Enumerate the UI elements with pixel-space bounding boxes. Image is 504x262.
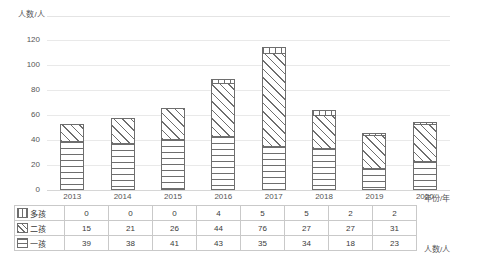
bar-2020 [413, 123, 437, 190]
y-tick-100: 100 [0, 60, 40, 69]
table-row-header-一孩: 一孩 [15, 236, 65, 251]
bar-segment-一孩-2015 [161, 139, 185, 190]
bar-2015 [161, 109, 185, 190]
bar-2013 [60, 125, 84, 190]
data-table: 多孩00045522二孩1521264476272731一孩3938414335… [14, 205, 417, 251]
bar-segment-一孩-2018 [312, 148, 336, 190]
y-tick-120: 120 [0, 35, 40, 44]
table-row: 一孩3938414335341823 [15, 236, 417, 251]
table-cell-多孩-2013: 0 [65, 206, 109, 221]
bar-segment-二孩-2016 [211, 83, 235, 138]
table-row: 多孩00045522 [15, 206, 417, 221]
y-tick-40: 40 [0, 135, 40, 144]
bar-segment-二孩-2019 [362, 135, 386, 169]
table-cell-一孩-2019: 18 [329, 236, 373, 251]
bar-segment-二孩-2020 [413, 124, 437, 163]
table-cell-二孩-2016: 44 [197, 221, 241, 236]
table-cell-一孩-2013: 39 [65, 236, 109, 251]
table-row-label: 二孩 [30, 225, 46, 234]
table-cell-多孩-2020: 2 [373, 206, 417, 221]
table-cell-多孩-2014: 0 [109, 206, 153, 221]
bar-group [47, 0, 450, 190]
table-row-header-多孩: 多孩 [15, 206, 65, 221]
table-cell-一孩-2014: 38 [109, 236, 153, 251]
bar-2017 [262, 48, 286, 190]
bar-segment-一孩-2016 [211, 136, 235, 190]
table-cell-二孩-2013: 15 [65, 221, 109, 236]
bar-2014 [111, 119, 135, 191]
bar-2019 [362, 134, 386, 190]
legend-swatch-icon-多孩 [17, 208, 28, 218]
table-units-label: 人数/人 [424, 243, 450, 254]
table-cell-多孩-2019: 2 [329, 206, 373, 221]
bar-segment-二孩-2015 [161, 108, 185, 140]
x-tick-2016: 2016 [198, 192, 248, 201]
bar-segment-二孩-2013 [60, 124, 84, 143]
x-tick-2017: 2017 [249, 192, 299, 201]
table-row-label: 多孩 [30, 210, 46, 219]
table-cell-二孩-2017: 76 [241, 221, 285, 236]
y-axis-title: 人数/人 [18, 8, 45, 19]
bar-segment-二孩-2014 [111, 118, 135, 144]
table-cell-二孩-2015: 26 [153, 221, 197, 236]
x-tick-2018: 2018 [299, 192, 349, 201]
y-tick-20: 20 [0, 160, 40, 169]
table-cell-一孩-2015: 41 [153, 236, 197, 251]
table-cell-一孩-2020: 23 [373, 236, 417, 251]
table-cell-二孩-2019: 27 [329, 221, 373, 236]
table-cell-多孩-2018: 5 [285, 206, 329, 221]
y-tick-0: 0 [0, 185, 40, 194]
bar-segment-一孩-2020 [413, 161, 437, 190]
bar-2018 [312, 111, 336, 190]
x-tick-2013: 2013 [47, 192, 97, 201]
table-cell-一孩-2018: 34 [285, 236, 329, 251]
x-axis-title: 年份/年 [424, 192, 450, 203]
table-cell-二孩-2018: 27 [285, 221, 329, 236]
bar-segment-一孩-2017 [262, 146, 286, 190]
bar-segment-一孩-2014 [111, 143, 135, 190]
bar-segment-二孩-2017 [262, 53, 286, 148]
x-tick-2014: 2014 [97, 192, 147, 201]
table-row-label: 一孩 [30, 240, 46, 249]
bar-segment-一孩-2019 [362, 168, 386, 190]
y-tick-60: 60 [0, 110, 40, 119]
bar-segment-二孩-2018 [312, 115, 336, 149]
table-cell-二孩-2014: 21 [109, 221, 153, 236]
legend-swatch-icon-二孩 [17, 223, 28, 233]
bar-segment-一孩-2013 [60, 141, 84, 190]
table-row-header-二孩: 二孩 [15, 221, 65, 236]
x-tick-2019: 2019 [349, 192, 399, 201]
table-row: 二孩1521264476272731 [15, 221, 417, 236]
x-tick-2015: 2015 [148, 192, 198, 201]
table-cell-多孩-2017: 5 [241, 206, 285, 221]
table-cell-一孩-2016: 43 [197, 236, 241, 251]
legend-swatch-icon-一孩 [17, 238, 28, 248]
y-tick-80: 80 [0, 85, 40, 94]
stacked-bar-chart-figure: 人数/人 020406080100120 2013201420152016201… [0, 0, 504, 262]
bar-2016 [211, 80, 235, 190]
table-cell-二孩-2020: 31 [373, 221, 417, 236]
plot-area: 人数/人 020406080100120 2013201420152016201… [0, 0, 504, 200]
table-cell-多孩-2015: 0 [153, 206, 197, 221]
table-cell-一孩-2017: 35 [241, 236, 285, 251]
table-cell-多孩-2016: 4 [197, 206, 241, 221]
gridline-0 [47, 190, 450, 191]
